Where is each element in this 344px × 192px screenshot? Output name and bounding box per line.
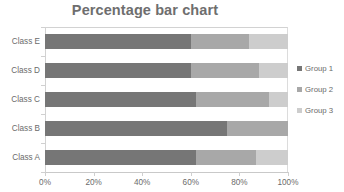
legend-item-group-3[interactable]: Group 3 (297, 106, 344, 115)
bar-segment-group-1 (45, 34, 191, 49)
bar-segment-group-3 (269, 92, 288, 107)
legend-item-group-2[interactable]: Group 2 (297, 85, 344, 94)
bar-segment-group-2 (191, 34, 249, 49)
y-axis-label: Class B (0, 124, 40, 133)
legend-swatch-icon (297, 87, 302, 92)
y-axis-tick (41, 56, 45, 57)
legend-swatch-icon (297, 66, 302, 71)
legend-item-group-1[interactable]: Group 1 (297, 64, 344, 73)
bar-segment-group-3 (249, 34, 288, 49)
bar-segment-group-2 (196, 92, 269, 107)
bar-segment-group-1 (45, 150, 196, 165)
chart-title: Percentage bar chart (0, 2, 290, 18)
x-axis-tick (239, 172, 240, 176)
x-axis-tick (288, 172, 289, 176)
y-axis-tick (41, 114, 45, 115)
y-axis-tick (41, 143, 45, 144)
table-row (45, 150, 288, 165)
x-axis-label: 60% (171, 178, 211, 187)
chart-container: Percentage bar chart Class EClass DClass… (0, 0, 344, 192)
table-row (45, 63, 288, 78)
chart-legend: Group 1Group 2Group 3 (297, 64, 344, 127)
x-axis-tick (142, 172, 143, 176)
x-axis-label: 100% (268, 178, 308, 187)
bar-segment-group-3 (256, 150, 288, 165)
y-axis-label: Class D (0, 66, 40, 75)
x-axis-tick (94, 172, 95, 176)
x-axis-label: 0% (25, 178, 65, 187)
table-row (45, 34, 288, 49)
table-row (45, 121, 288, 136)
legend-label: Group 1 (305, 64, 333, 73)
bar-segment-group-2 (191, 63, 259, 78)
bar-rows (45, 27, 288, 172)
y-axis-label: Class A (0, 153, 40, 162)
bar-segment-group-2 (196, 150, 257, 165)
y-axis-tick (41, 27, 45, 28)
x-axis-label: 80% (219, 178, 259, 187)
legend-label: Group 3 (305, 106, 333, 115)
x-axis-label: 40% (122, 178, 162, 187)
y-axis-label: Class E (0, 37, 40, 46)
y-axis-tick (41, 85, 45, 86)
table-row (45, 92, 288, 107)
x-axis-line (45, 172, 289, 173)
bar-segment-group-2 (227, 121, 288, 136)
y-axis-label: Class C (0, 95, 40, 104)
bar-segment-group-1 (45, 63, 191, 78)
bar-segment-group-3 (259, 63, 288, 78)
x-axis-label: 20% (74, 178, 114, 187)
x-axis-tick (191, 172, 192, 176)
legend-swatch-icon (297, 108, 302, 113)
bar-segment-group-1 (45, 121, 227, 136)
bar-segment-group-1 (45, 92, 196, 107)
x-axis-tick (45, 172, 46, 176)
legend-label: Group 2 (305, 85, 333, 94)
